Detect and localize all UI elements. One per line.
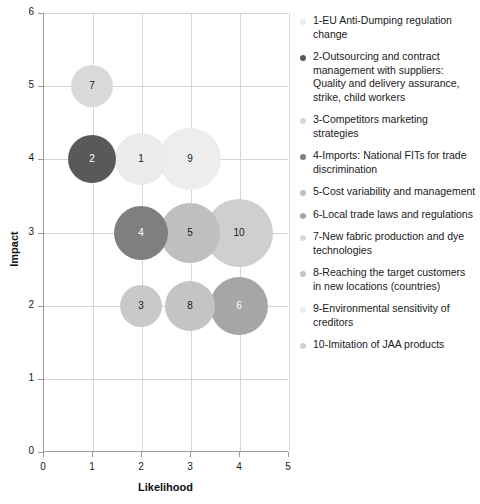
legend-marker-icon bbox=[300, 154, 306, 160]
x-axis-tick bbox=[141, 452, 142, 457]
bubble-1[interactable]: 1 bbox=[115, 133, 167, 185]
x-axis-tick bbox=[288, 452, 289, 457]
y-axis-tick-label: 6 bbox=[10, 6, 34, 17]
x-axis-tick bbox=[43, 452, 44, 457]
gridline-vertical bbox=[289, 13, 290, 451]
bubble-label: 4 bbox=[138, 228, 144, 238]
legend-marker-icon bbox=[300, 343, 306, 349]
legend-label: 4-Imports: National FITs for trade discr… bbox=[313, 149, 476, 176]
x-axis-tick-label: 5 bbox=[276, 461, 300, 472]
legend-label: 6-Local trade laws and regulations bbox=[313, 208, 473, 222]
legend-label: 3-Competitors marketing strategies bbox=[313, 113, 476, 140]
y-axis-tick bbox=[38, 86, 43, 87]
bubble-label: 6 bbox=[236, 301, 242, 311]
y-axis-tick bbox=[38, 306, 43, 307]
legend-item-10[interactable]: 10-Imitation of JAA products bbox=[300, 338, 476, 352]
legend-label: 5-Cost variability and management bbox=[313, 185, 475, 199]
legend-label: 10-Imitation of JAA products bbox=[313, 338, 444, 352]
y-axis-tick bbox=[38, 452, 43, 453]
legend-item-1[interactable]: 1-EU Anti-Dumping regulation change bbox=[300, 14, 476, 41]
x-axis-tick bbox=[190, 452, 191, 457]
bubble-5[interactable]: 5 bbox=[160, 203, 220, 263]
y-axis-title: Impact bbox=[8, 219, 20, 279]
legend-marker-icon bbox=[300, 19, 306, 25]
bubble-2[interactable]: 2 bbox=[68, 135, 116, 183]
y-axis-tick-label: 0 bbox=[10, 445, 34, 456]
y-axis-tick bbox=[38, 379, 43, 380]
y-axis-tick-label: 1 bbox=[10, 372, 34, 383]
legend-item-8[interactable]: 8-Reaching the target customers in new l… bbox=[300, 266, 476, 293]
bubble-9[interactable]: 9 bbox=[159, 128, 221, 190]
x-axis-tick-label: 4 bbox=[227, 461, 251, 472]
x-axis-tick-label: 0 bbox=[31, 461, 55, 472]
legend-marker-icon bbox=[300, 271, 306, 277]
legend-item-2[interactable]: 2-Outsourcing and contract management wi… bbox=[300, 50, 476, 104]
legend-item-5[interactable]: 5-Cost variability and management bbox=[300, 185, 476, 199]
gridline-horizontal bbox=[44, 13, 288, 14]
y-axis-tick bbox=[38, 233, 43, 234]
x-axis-tick bbox=[92, 452, 93, 457]
legend-label: 1-EU Anti-Dumping regulation change bbox=[313, 14, 476, 41]
bubble-label: 3 bbox=[138, 301, 144, 311]
bubble-label: 7 bbox=[89, 81, 95, 91]
bubble-8[interactable]: 8 bbox=[165, 281, 215, 331]
bubble-label: 8 bbox=[187, 301, 193, 311]
gridline-horizontal bbox=[44, 379, 288, 380]
legend-label: 2-Outsourcing and contract management wi… bbox=[313, 50, 476, 104]
y-axis-tick bbox=[38, 159, 43, 160]
bubble-4[interactable]: 4 bbox=[114, 206, 168, 260]
bubble-chart: 0123450123456 10956418237 Likelihood Imp… bbox=[0, 0, 480, 504]
bubble-3[interactable]: 3 bbox=[120, 285, 162, 327]
bubble-label: 10 bbox=[233, 228, 244, 238]
legend-item-9[interactable]: 9-Environmental sensitivity of creditors bbox=[300, 302, 476, 329]
legend-label: 8-Reaching the target customers in new l… bbox=[313, 266, 476, 293]
y-axis-tick-label: 2 bbox=[10, 299, 34, 310]
legend-marker-icon bbox=[300, 307, 306, 313]
x-axis-tick-label: 3 bbox=[178, 461, 202, 472]
x-axis-tick bbox=[239, 452, 240, 457]
legend-marker-icon bbox=[300, 190, 306, 196]
x-axis-tick-label: 1 bbox=[80, 461, 104, 472]
y-axis-tick-label: 5 bbox=[10, 79, 34, 90]
bubble-6[interactable]: 6 bbox=[210, 277, 268, 335]
legend-label: 9-Environmental sensitivity of creditors bbox=[313, 302, 476, 329]
chart-legend: 1-EU Anti-Dumping regulation change2-Out… bbox=[300, 14, 476, 361]
bubble-7[interactable]: 7 bbox=[71, 65, 113, 107]
y-axis-tick-label: 4 bbox=[10, 152, 34, 163]
bubble-label: 9 bbox=[187, 154, 193, 164]
legend-item-7[interactable]: 7-New fabric production and dye technolo… bbox=[300, 230, 476, 257]
legend-marker-icon bbox=[300, 55, 306, 61]
legend-marker-icon bbox=[300, 235, 306, 241]
bubble-label: 5 bbox=[187, 228, 193, 238]
legend-marker-icon bbox=[300, 213, 306, 219]
legend-item-6[interactable]: 6-Local trade laws and regulations bbox=[300, 208, 476, 222]
bubble-label: 2 bbox=[89, 154, 95, 164]
legend-marker-icon bbox=[300, 118, 306, 124]
x-axis-tick-label: 2 bbox=[129, 461, 153, 472]
bubble-label: 1 bbox=[138, 154, 144, 164]
legend-item-3[interactable]: 3-Competitors marketing strategies bbox=[300, 113, 476, 140]
legend-label: 7-New fabric production and dye technolo… bbox=[313, 230, 476, 257]
y-axis-tick bbox=[38, 13, 43, 14]
x-axis-title: Likelihood bbox=[43, 481, 288, 493]
legend-item-4[interactable]: 4-Imports: National FITs for trade discr… bbox=[300, 149, 476, 176]
